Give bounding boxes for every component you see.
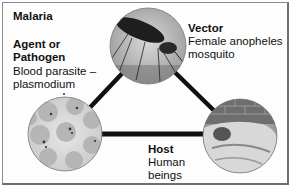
- host-description: Human beings: [148, 156, 185, 182]
- agent-heading: Agent or Pathogen: [13, 38, 65, 64]
- host-desc-line1: Human: [148, 156, 185, 169]
- agent-desc-line2: plasmodium: [13, 78, 96, 91]
- diagram-title: Malaria: [13, 10, 53, 23]
- agent-heading-line1: Agent or: [13, 38, 65, 51]
- agent-desc-line1: Blood parasite –: [13, 65, 96, 78]
- vector-heading: Vector: [188, 22, 223, 35]
- agent-heading-line2: Pathogen: [13, 51, 65, 64]
- triangle-diagram: [0, 0, 291, 192]
- host-heading: Host: [148, 143, 174, 156]
- agent-description: Blood parasite – plasmodium: [13, 65, 96, 91]
- vector-desc-line2: mosquito: [188, 48, 283, 61]
- vector-desc-line1: Female anopheles: [188, 35, 283, 48]
- host-desc-line2: beings: [148, 169, 185, 182]
- vector-description: Female anopheles mosquito: [188, 35, 283, 61]
